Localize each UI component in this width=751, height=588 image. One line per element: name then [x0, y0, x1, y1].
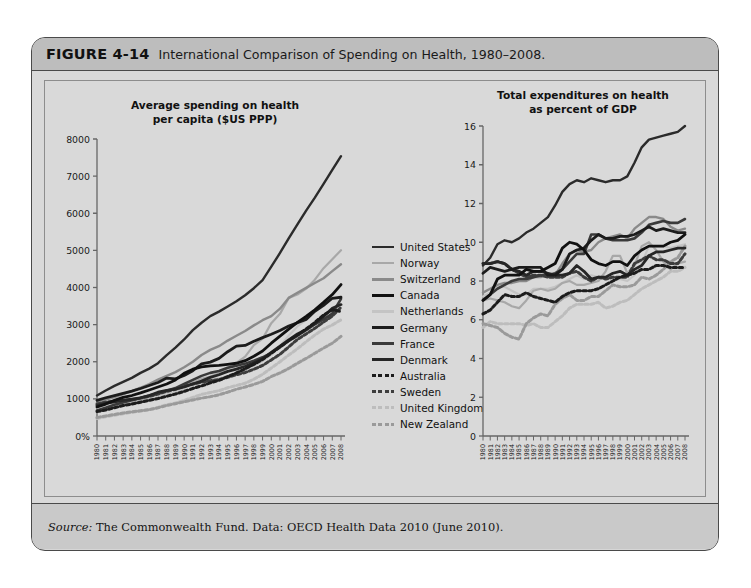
svg-text:6: 6: [470, 314, 476, 325]
figure-card: FIGURE 4-14 International Comparison of …: [31, 37, 719, 551]
svg-text:1987: 1987: [154, 444, 162, 460]
svg-text:1989: 1989: [172, 444, 180, 460]
svg-text:1998: 1998: [250, 444, 258, 460]
svg-text:2004: 2004: [303, 444, 311, 460]
svg-text:1983: 1983: [120, 444, 128, 460]
svg-text:2: 2: [470, 392, 476, 403]
chart-svg-right: 0246810121416198019811982198319841985198…: [435, 81, 707, 496]
svg-text:1995: 1995: [224, 444, 232, 460]
svg-text:1992: 1992: [198, 444, 206, 460]
legend-item-label: Canada: [400, 289, 440, 301]
svg-text:8: 8: [470, 276, 476, 287]
legend-swatch-icon: [372, 390, 394, 393]
svg-text:7000: 7000: [66, 171, 90, 182]
svg-text:4: 4: [470, 353, 476, 364]
figure-number: FIGURE 4-14: [46, 46, 150, 62]
figure-header: FIGURE 4-14 International Comparison of …: [32, 38, 718, 71]
svg-text:2005: 2005: [311, 444, 319, 460]
legend-swatch-icon: [372, 262, 394, 265]
svg-text:16: 16: [464, 121, 476, 132]
svg-text:12: 12: [464, 198, 476, 209]
legend-swatch-icon: [372, 326, 394, 329]
svg-text:1988: 1988: [163, 444, 171, 460]
figure-footer: Source: The Commonwealth Fund. Data: OEC…: [32, 503, 718, 549]
svg-text:8000: 8000: [66, 134, 90, 145]
legend-swatch-icon: [372, 374, 394, 377]
figure-caption: International Comparison of Spending on …: [159, 47, 546, 62]
legend-swatch-icon: [372, 342, 394, 345]
svg-text:1984: 1984: [128, 444, 136, 460]
chart-frame: Average spending on health per capita ($…: [44, 80, 706, 497]
series-line-united-states: [483, 126, 685, 266]
chart-panel-health-percent-gdp: Total expenditures on health as percent …: [435, 81, 707, 496]
svg-text:6000: 6000: [66, 208, 90, 219]
svg-text:1982: 1982: [111, 444, 119, 460]
legend-swatch-icon: [372, 278, 394, 281]
svg-text:1999: 1999: [259, 444, 267, 460]
svg-text:1981: 1981: [102, 444, 110, 460]
legend-item-label: France: [400, 338, 435, 350]
svg-text:1000: 1000: [66, 393, 90, 404]
source-label: Source:: [48, 520, 92, 534]
svg-text:2006: 2006: [320, 444, 328, 460]
svg-text:1991: 1991: [189, 444, 197, 460]
svg-text:1980: 1980: [93, 444, 101, 460]
svg-text:1985: 1985: [137, 444, 145, 460]
svg-text:2002: 2002: [285, 444, 293, 460]
svg-text:0: 0: [470, 431, 476, 442]
legend-swatch-icon: [372, 358, 394, 361]
source-note: Source: The Commonwealth Fund. Data: OEC…: [48, 520, 503, 534]
legend-swatch-icon: [372, 246, 394, 249]
svg-text:0%: 0%: [75, 431, 90, 442]
legend-swatch-icon: [372, 406, 394, 409]
svg-text:1997: 1997: [242, 444, 250, 460]
svg-text:2008: 2008: [337, 444, 345, 460]
svg-text:3000: 3000: [66, 319, 90, 330]
svg-text:2000: 2000: [268, 444, 276, 460]
svg-text:2000: 2000: [66, 356, 90, 367]
svg-text:1994: 1994: [215, 444, 223, 460]
svg-text:2001: 2001: [276, 444, 284, 460]
svg-text:2008: 2008: [681, 444, 689, 460]
svg-text:10: 10: [464, 237, 476, 248]
svg-text:1990: 1990: [181, 444, 189, 460]
legend-item-label: Norway: [400, 257, 439, 269]
svg-text:14: 14: [464, 159, 476, 170]
svg-text:2003: 2003: [294, 444, 302, 460]
figure-body: Average spending on health per capita ($…: [32, 71, 718, 503]
svg-text:1993: 1993: [207, 444, 215, 460]
svg-text:1996: 1996: [233, 444, 241, 460]
legend-swatch-icon: [372, 310, 394, 313]
svg-text:4000: 4000: [66, 282, 90, 293]
legend-swatch-icon: [372, 423, 394, 426]
svg-text:5000: 5000: [66, 245, 90, 256]
svg-text:2007: 2007: [329, 444, 337, 460]
svg-text:1986: 1986: [146, 444, 154, 460]
legend-swatch-icon: [372, 294, 394, 297]
source-text: The Commonwealth Fund. Data: OECD Health…: [92, 520, 503, 534]
